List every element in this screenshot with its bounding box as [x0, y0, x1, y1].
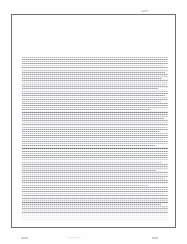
page-top-margin: [12, 15, 175, 56]
text-line: [22, 63, 168, 64]
paragraph-4: [22, 187, 168, 213]
text-line: [22, 141, 168, 142]
text-line: [22, 124, 168, 125]
text-line: [22, 97, 168, 98]
paragraph-1: [22, 57, 168, 110]
text-line: [22, 80, 168, 81]
text-line: [22, 189, 168, 190]
text-line: [22, 88, 158, 89]
text-line: [22, 153, 168, 154]
text-line: [22, 127, 167, 128]
text-line: [22, 180, 168, 181]
text-line: [22, 93, 168, 94]
text-line: [22, 191, 168, 192]
text-line: [22, 78, 162, 79]
text-line: [22, 185, 148, 186]
text-line: [22, 145, 155, 146]
text-line: [22, 59, 168, 60]
scan-artifact-top: [141, 10, 148, 13]
text-line: [22, 86, 168, 87]
text-line: [22, 74, 168, 75]
text-line: [22, 122, 168, 123]
text-line: [22, 95, 165, 96]
text-line: [22, 112, 168, 113]
text-line: [22, 170, 156, 171]
text-line: [22, 105, 168, 106]
text-line: [22, 159, 168, 160]
text-line: [22, 76, 168, 77]
scan-artifact-bottom-right: [152, 237, 158, 239]
text-line: [22, 195, 168, 196]
text-line: [22, 206, 168, 207]
text-line: [22, 120, 168, 121]
text-line: [22, 148, 168, 149]
text-line: [22, 212, 168, 213]
text-line: [22, 193, 164, 194]
text-line: [22, 118, 164, 119]
text-line: [22, 107, 168, 108]
paragraph-2: [22, 112, 168, 147]
text-line: [22, 61, 167, 62]
text-line: [22, 67, 168, 68]
text-line: [22, 200, 168, 201]
text-line: [22, 57, 168, 58]
text-line: [22, 116, 168, 117]
text-line: [22, 114, 168, 115]
scan-canvas: [0, 0, 187, 244]
text-line: [22, 101, 161, 102]
text-line: [22, 151, 168, 152]
text-line: [22, 208, 168, 209]
text-line: [22, 72, 165, 73]
text-line: [22, 133, 168, 134]
text-line: [22, 204, 161, 205]
text-line: [22, 82, 168, 83]
body-text-block: [22, 57, 168, 221]
text-line: [22, 155, 167, 156]
text-line: [22, 84, 167, 85]
scan-artifact-bottom-mid: [67, 237, 81, 238]
text-line: [22, 135, 168, 136]
text-line: [22, 157, 168, 158]
scan-artifact-bottom-left: [21, 237, 28, 239]
text-line: [22, 162, 162, 163]
text-line: [22, 187, 168, 188]
text-line: [22, 129, 168, 130]
text-line: [22, 70, 168, 71]
text-line: [22, 91, 168, 92]
text-line: [22, 168, 168, 169]
text-line: [22, 182, 168, 183]
text-line: [22, 137, 168, 138]
text-line: [22, 99, 168, 100]
text-line: [22, 174, 168, 175]
text-line: [22, 103, 168, 104]
text-line: [22, 143, 168, 144]
text-line: [22, 131, 159, 132]
paragraph-3: [22, 148, 168, 186]
text-line: [22, 198, 168, 199]
text-line: [22, 202, 168, 203]
text-line: [22, 65, 164, 66]
text-line: [22, 109, 150, 110]
text-line: [22, 210, 168, 211]
text-line: [22, 176, 168, 177]
text-line: [22, 166, 168, 167]
text-line: [22, 139, 165, 140]
document-page-sheet: [11, 14, 176, 228]
text-line: [22, 164, 168, 165]
text-line: [22, 178, 165, 179]
text-line: [22, 172, 168, 173]
